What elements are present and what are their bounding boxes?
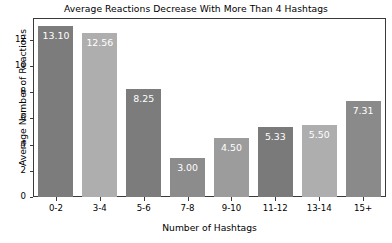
y-axis-tick-mark xyxy=(30,171,34,172)
bar-value-label: 4.50 xyxy=(214,142,249,153)
bar-value-label: 8.25 xyxy=(126,93,161,104)
y-axis-tick-mark xyxy=(30,145,34,146)
x-axis-tick-mark xyxy=(231,197,232,201)
x-axis-tick-mark xyxy=(275,197,276,201)
x-axis-tick-label: 15+ xyxy=(341,203,385,213)
bar: 5.33 xyxy=(258,127,293,197)
y-axis-tick-mark xyxy=(30,66,34,67)
x-axis-tick-label: 0-2 xyxy=(34,203,78,213)
x-axis-label: Number of Hashtags xyxy=(33,222,386,233)
bar: 5.50 xyxy=(302,125,337,197)
bar-value-label: 13.10 xyxy=(38,30,73,41)
bar: 13.10 xyxy=(38,26,73,197)
x-axis-tick-mark xyxy=(144,197,145,201)
bar-value-label: 12.56 xyxy=(82,37,117,48)
y-axis-tick-label: 2 xyxy=(0,166,26,175)
x-axis-tick-label: 3-4 xyxy=(78,203,122,213)
x-axis-tick-mark xyxy=(319,197,320,201)
x-axis-tick-mark xyxy=(100,197,101,201)
bar: 3.00 xyxy=(170,158,205,197)
bar: 8.25 xyxy=(126,89,161,197)
y-axis-tick-label: 12 xyxy=(0,35,26,44)
x-axis-tick-mark xyxy=(56,197,57,201)
x-axis-tick-label: 5-6 xyxy=(122,203,166,213)
x-axis-tick-mark xyxy=(188,197,189,201)
x-axis-tick-label: 9-10 xyxy=(210,203,254,213)
y-axis-tick-mark xyxy=(30,118,34,119)
x-axis-tick-label: 13-14 xyxy=(297,203,341,213)
y-axis-tick-label: 8 xyxy=(0,87,26,96)
y-axis-tick-label: 6 xyxy=(0,113,26,122)
y-axis-tick-label: 4 xyxy=(0,140,26,149)
x-axis-tick-label: 11-12 xyxy=(253,203,297,213)
chart-title: Average Reactions Decrease With More Tha… xyxy=(0,3,392,14)
bar-value-label: 5.33 xyxy=(258,131,293,142)
bar: 7.31 xyxy=(346,101,381,197)
bar-chart-figure: Average Reactions Decrease With More Tha… xyxy=(0,0,392,243)
bar-value-label: 3.00 xyxy=(170,162,205,173)
y-axis-tick-mark xyxy=(30,92,34,93)
y-axis-tick-label: 10 xyxy=(0,61,26,70)
x-axis-tick-mark xyxy=(363,197,364,201)
plot-area: 13.1012.568.253.004.505.335.507.31 xyxy=(34,19,385,197)
bar-value-label: 5.50 xyxy=(302,129,337,140)
bar-value-label: 7.31 xyxy=(346,105,381,116)
y-axis-tick-label: 0 xyxy=(0,192,26,201)
y-axis-tick-mark xyxy=(30,197,34,198)
bar: 4.50 xyxy=(214,138,249,197)
x-axis-tick-label: 7-8 xyxy=(166,203,210,213)
bar: 12.56 xyxy=(82,33,117,197)
y-axis-tick-mark xyxy=(30,40,34,41)
